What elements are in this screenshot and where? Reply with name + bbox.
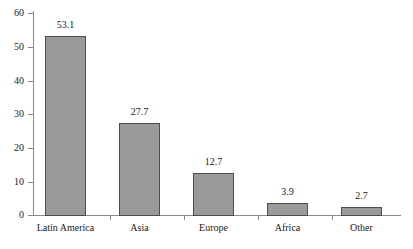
x-tick-sep-2 — [184, 215, 185, 220]
y-tick-30 — [28, 114, 34, 115]
y-tick-40 — [28, 81, 34, 82]
bar-value-asia: 27.7 — [119, 107, 160, 117]
bar-europe[interactable] — [193, 173, 234, 216]
bar-latin-america[interactable] — [45, 36, 86, 216]
y-tick-20 — [28, 148, 34, 149]
y-tick-50 — [28, 47, 34, 48]
x-tick-sep-1 — [110, 215, 111, 220]
y-tick-10 — [28, 182, 34, 183]
y-tick-label-40: 40 — [14, 76, 24, 86]
bar-other[interactable] — [341, 207, 382, 216]
y-tick-label-50: 50 — [14, 42, 24, 52]
bar-chart: 60 50 40 30 20 10 0 53.1 Latin America 2… — [0, 0, 413, 249]
bar-value-other: 2.7 — [341, 191, 382, 201]
y-tick-60 — [28, 13, 34, 14]
bar-value-africa: 3.9 — [267, 187, 308, 197]
x-tick-sep-3 — [258, 215, 259, 220]
y-tick-label-0: 0 — [19, 210, 24, 220]
category-label-other: Other — [312, 222, 411, 234]
bar-value-europe: 12.7 — [193, 157, 234, 167]
y-tick-0 — [28, 215, 34, 216]
y-tick-label-20: 20 — [14, 143, 24, 153]
bar-africa[interactable] — [267, 203, 308, 216]
y-tick-label-10: 10 — [14, 177, 24, 187]
y-tick-label-30: 30 — [14, 109, 24, 119]
y-tick-label-60: 60 — [14, 8, 24, 18]
x-tick-sep-4 — [332, 215, 333, 220]
bar-asia[interactable] — [119, 123, 160, 216]
bar-value-latin-america: 53.1 — [45, 20, 86, 30]
